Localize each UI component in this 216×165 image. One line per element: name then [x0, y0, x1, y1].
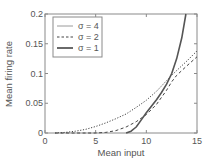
- curve-sigma-2: [55, 57, 197, 133]
- x-tick-label: 0: [42, 136, 47, 146]
- legend-label: σ = 1: [78, 43, 99, 53]
- y-tick-label: 0.1: [30, 69, 43, 79]
- y-tick-label: 0.15: [25, 39, 43, 49]
- y-tick-label: 0: [38, 128, 43, 138]
- legend: σ = 4σ = 2σ = 1: [53, 17, 102, 57]
- y-tick-label: 0.2: [30, 9, 43, 19]
- axis-ticks: 05101500.050.10.150.2: [25, 9, 202, 146]
- x-axis-label: Mean input: [97, 147, 144, 158]
- legend-label: σ = 2: [78, 32, 99, 42]
- x-tick-label: 10: [141, 136, 151, 146]
- firing-rate-chart: 05101500.050.10.150.2 σ = 4σ = 2σ = 1 Me…: [0, 0, 216, 165]
- curve-sigma-1: [126, 14, 186, 133]
- x-tick-label: 15: [192, 136, 202, 146]
- y-tick-label: 0.05: [25, 98, 43, 108]
- y-axis-label: Mean firing rate: [3, 41, 14, 107]
- legend-label: σ = 4: [78, 21, 99, 31]
- x-tick-label: 5: [93, 136, 98, 146]
